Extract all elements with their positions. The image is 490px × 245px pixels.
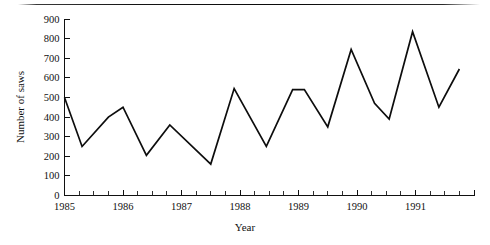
y-tick-label: 0 [54,190,59,201]
x-tick-label: 1988 [230,201,251,212]
x-tick-label: 1987 [171,201,192,212]
x-tick-label: 1986 [113,201,134,212]
x-tick-label: 1991 [405,201,426,212]
y-tick-label: 800 [44,33,60,44]
x-minor-tick-marks [65,190,475,196]
y-axis: 0100200300400500600700800900 Number of s… [14,14,70,202]
y-tick-label: 200 [44,151,60,162]
x-tick-label: 1989 [288,201,309,212]
x-tick-label: 1985 [54,201,75,212]
y-tick-labels: 0100200300400500600700800900 [44,14,60,202]
y-tick-label: 600 [44,72,60,83]
x-axis-title: Year [235,221,256,233]
line-chart: 0100200300400500600700800900 Number of s… [0,0,490,245]
x-tick-labels: 1985198619871988198919901991 [54,201,426,212]
y-tick-label: 400 [44,112,60,123]
figure-page: 0100200300400500600700800900 Number of s… [0,0,490,245]
data-series-line [65,32,460,164]
x-tick-label: 1990 [347,201,368,212]
y-tick-label: 100 [44,170,60,181]
y-axis-title: Number of saws [14,71,26,143]
chart-svg: 0100200300400500600700800900 Number of s… [0,0,490,245]
y-tick-label: 700 [44,53,60,64]
y-tick-label: 900 [44,14,60,25]
y-tick-label: 300 [44,131,60,142]
y-tick-label: 500 [44,92,60,103]
x-axis: 1985198619871988198919901991 Year [54,190,474,233]
